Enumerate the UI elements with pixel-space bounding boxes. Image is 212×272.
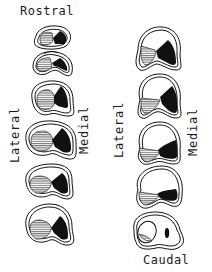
section-left-1 (34, 26, 70, 49)
section-right-1 (136, 27, 181, 70)
section-left-3 (32, 81, 74, 116)
section-left-2 (33, 52, 72, 76)
section-diagram (0, 0, 212, 272)
section-left-6 (26, 204, 74, 245)
section-right-3 (138, 122, 180, 164)
section-left-5 (26, 164, 73, 199)
section-left-4 (26, 121, 76, 159)
section-right-5 (134, 212, 184, 249)
section-right-2 (138, 74, 181, 118)
section-right-4 (137, 166, 183, 208)
